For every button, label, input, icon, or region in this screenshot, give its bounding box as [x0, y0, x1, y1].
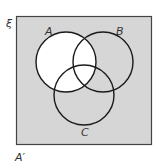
venn-diagram: ξ A B C A′ — [0, 0, 160, 165]
set-b-label: B — [116, 25, 124, 38]
caption-label: A′ — [14, 151, 26, 164]
set-c-label: C — [81, 126, 89, 139]
set-a-label: A — [44, 25, 53, 38]
universal-set-label: ξ — [5, 17, 13, 30]
